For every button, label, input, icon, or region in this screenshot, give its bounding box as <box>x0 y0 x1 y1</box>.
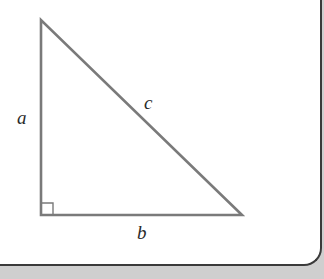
side-c-label: c <box>144 93 152 112</box>
side-a-label: a <box>17 108 27 127</box>
right-triangle-figure <box>0 0 324 279</box>
right-angle-marker <box>41 203 53 215</box>
side-b-label: b <box>137 223 147 242</box>
triangle-shape <box>41 20 242 215</box>
